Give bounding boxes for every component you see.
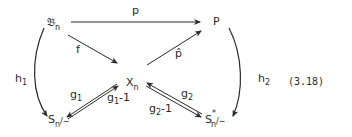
- node-Xn: Xn: [126, 76, 139, 92]
- node-Sn-quotient: Sn/∼: [48, 113, 69, 129]
- label-g2: g2: [181, 87, 193, 102]
- label-p-hat: p̂: [175, 47, 182, 60]
- node-Sn-star-quotient: S*n/∼: [205, 109, 225, 129]
- label-g1: g1: [70, 88, 82, 103]
- equation-number: (3.18): [288, 76, 324, 87]
- commutative-diagram: 𝔅n P Xn Sn/∼ S*n/∼ p f p̂ h1 h2 g1 g1-1 …: [0, 0, 352, 137]
- arrow-h1: [35, 28, 47, 116]
- label-f: f: [76, 43, 81, 56]
- label-h1: h1: [15, 72, 27, 87]
- arrow-p-hat: [147, 31, 201, 65]
- label-p: p: [132, 4, 139, 17]
- label-h2: h2: [258, 72, 270, 87]
- label-g1-inverse: g1-1: [107, 91, 130, 106]
- arrow-h2: [229, 28, 240, 116]
- node-P: P: [213, 15, 220, 28]
- node-Bn: 𝔅n: [47, 16, 60, 32]
- label-g2-inverse: g2-1: [149, 102, 172, 117]
